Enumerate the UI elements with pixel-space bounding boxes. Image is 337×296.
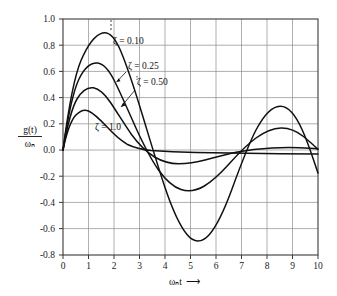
- y-tick-label: 0.8: [43, 41, 55, 51]
- x-tick-label: 8: [265, 261, 270, 271]
- x-tick-label: 4: [163, 261, 168, 271]
- x-axis-title-arrow: ⟶: [186, 277, 200, 287]
- x-tick-labels: 0 1 2 3 4 5 6 7 8 9 10: [61, 261, 323, 271]
- x-tick-label: 7: [239, 261, 244, 271]
- y-tick-label: -0.2: [40, 172, 55, 182]
- curve-label-zeta-1-0: ζ = 1.0: [95, 122, 121, 133]
- x-tick-label: 2: [112, 261, 117, 271]
- x-tickmarks: [63, 255, 318, 259]
- y-axis-title-numerator: g(t): [23, 125, 37, 136]
- curve-label-zeta-0-10: ζ = 0.10: [113, 36, 144, 47]
- curve-label-zeta-0-50: ζ = 0.50: [137, 77, 168, 88]
- y-tick-label: 0.4: [43, 93, 55, 103]
- y-tick-label: 0.0: [43, 145, 55, 155]
- y-tickmarks: [59, 19, 63, 255]
- x-tick-label: 5: [188, 261, 193, 271]
- y-axis-title: g(t) ωₙ: [18, 125, 42, 149]
- y-tick-label: 0.6: [43, 67, 55, 77]
- x-tick-label: 1: [86, 261, 91, 271]
- figure-container: 0 1 2 3 4 5 6 7 8 9 10 1.0 0.8 0.6 0.4 0…: [0, 0, 337, 296]
- y-axis-title-denominator: ωₙ: [25, 139, 35, 149]
- y-tick-label: -0.4: [40, 198, 55, 208]
- x-tick-label: 3: [137, 261, 142, 271]
- x-tick-label: 9: [290, 261, 295, 271]
- curve-label-zeta-0-25: ζ = 0.25: [128, 61, 159, 72]
- x-tick-label: 10: [313, 261, 323, 271]
- y-tick-label: 0.2: [43, 119, 55, 129]
- x-axis-title-text: ωₙt: [169, 277, 182, 287]
- y-tick-label: -0.6: [40, 224, 55, 234]
- x-axis-title: ωₙt ⟶: [169, 277, 200, 287]
- x-tick-label: 6: [214, 261, 219, 271]
- y-tick-label: -0.8: [40, 250, 55, 260]
- damped-impulse-response-chart: 0 1 2 3 4 5 6 7 8 9 10 1.0 0.8 0.6 0.4 0…: [0, 0, 337, 296]
- x-tick-label: 0: [61, 261, 66, 271]
- y-tick-labels: 1.0 0.8 0.6 0.4 0.2 0.0 -0.2 -0.4 -0.6 -…: [40, 14, 55, 260]
- y-tick-label: 1.0: [43, 14, 55, 24]
